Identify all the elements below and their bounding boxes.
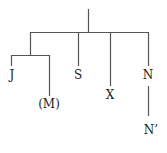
node-n-prime: N’ <box>144 124 158 136</box>
node-x: X <box>106 89 115 101</box>
node-n: N <box>143 69 154 81</box>
node-s: S <box>74 69 82 81</box>
node-m: (M) <box>38 98 60 110</box>
node-j: J <box>10 69 15 81</box>
